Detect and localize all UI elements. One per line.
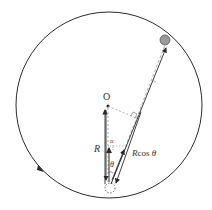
velocity-label: u — [110, 137, 114, 145]
ball-initial-position — [105, 183, 115, 193]
perpendicular-dashed-line — [108, 106, 136, 118]
ball — [160, 35, 170, 45]
angle-label: θ — [110, 160, 114, 169]
chord-arrow-up — [111, 48, 166, 184]
radius-label: R — [93, 143, 100, 154]
motion-direction-arrow-icon — [37, 165, 44, 172]
projection-label: Rcos θ — [131, 148, 157, 158]
angle-arc — [109, 172, 113, 173]
center-label: O — [103, 91, 110, 102]
circular-motion-diagram: O R u θ Rcos θ — [0, 0, 212, 210]
